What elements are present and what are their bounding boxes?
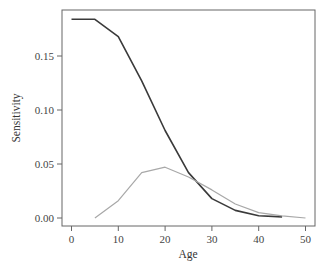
y-axis-label: Sensitivity xyxy=(10,93,23,142)
y-tick-label: 0.15 xyxy=(35,50,55,62)
x-tick-label: 0 xyxy=(69,233,75,245)
y-axis: 0.000.050.100.15 xyxy=(35,50,62,224)
x-tick-label: 50 xyxy=(300,233,312,245)
series-line-dark xyxy=(72,19,283,217)
x-tick-label: 20 xyxy=(160,233,172,245)
y-tick-label: 0.05 xyxy=(35,158,55,170)
x-tick-label: 30 xyxy=(206,233,218,245)
series-line-light xyxy=(95,167,306,218)
x-tick-label: 10 xyxy=(113,233,125,245)
series-lines xyxy=(72,19,306,218)
x-axis: 01020304050 xyxy=(69,226,312,245)
x-axis-label: Age xyxy=(178,248,197,261)
y-tick-label: 0.10 xyxy=(35,104,55,116)
plot-frame xyxy=(62,10,315,226)
chart: 01020304050 0.000.050.100.15 Age Sensiti… xyxy=(0,0,323,268)
x-tick-label: 40 xyxy=(253,233,265,245)
y-tick-label: 0.00 xyxy=(35,212,55,224)
